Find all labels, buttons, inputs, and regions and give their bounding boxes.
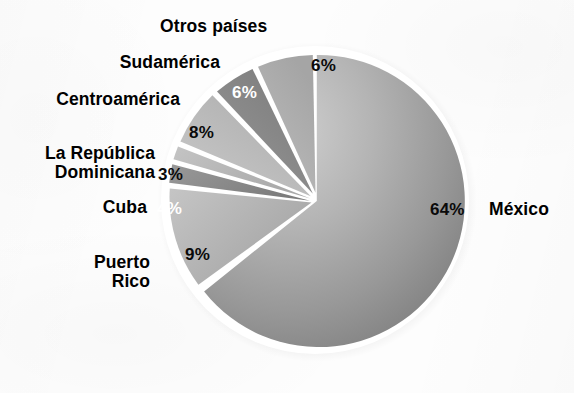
label-republica-dominicana-line2: Dominicana — [0, 163, 155, 181]
label-cuba: Cuba — [20, 198, 147, 216]
label-sudamerica: Sudamérica — [40, 53, 220, 71]
label-puerto-rico-line1: Puerto — [10, 253, 150, 271]
pie-chart-figure: Otros países Sudamérica Centroamérica La… — [0, 0, 574, 393]
label-puerto-rico-line2: Rico — [10, 272, 150, 290]
label-centroamerica: Centroamérica — [5, 90, 180, 108]
value-centroamerica: 8% — [189, 123, 214, 143]
label-republica-dominicana-line1: La República — [0, 144, 155, 162]
value-sudamerica: 6% — [232, 83, 257, 103]
label-otros-paises: Otros países — [160, 17, 300, 35]
value-republica-dominicana: 3% — [158, 165, 183, 185]
value-mexico: 64% — [430, 200, 465, 220]
label-mexico: México — [489, 200, 574, 218]
value-puerto-rico: 9% — [185, 245, 210, 265]
value-otros-paises: 6% — [311, 56, 336, 76]
value-cuba: 4% — [157, 199, 182, 219]
